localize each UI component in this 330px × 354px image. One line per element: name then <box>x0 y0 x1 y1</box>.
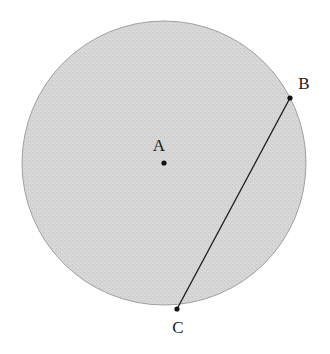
point-b <box>287 95 292 100</box>
point-c <box>174 306 179 311</box>
label-b: B <box>298 74 309 93</box>
label-a: A <box>153 136 166 155</box>
point-a <box>161 160 166 165</box>
label-c: C <box>172 318 183 337</box>
geometry-diagram: A B C <box>0 0 330 354</box>
